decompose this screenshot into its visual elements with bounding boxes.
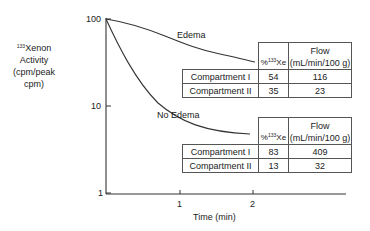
no-edema-table: %133Xe Flow(mL/min/100 g) Compartment I … xyxy=(182,117,352,173)
x-tick-label-1: 1 xyxy=(177,199,182,210)
y-label-line2: Activity xyxy=(4,54,64,66)
y-tick-label-10: 10 xyxy=(91,101,101,112)
edema-table: %133Xe Flow(mL/min/100 g) Compartment I … xyxy=(182,42,352,98)
y-label-superscript: 133 xyxy=(17,43,25,49)
flow-header: Flow(mL/min/100 g) xyxy=(289,43,352,70)
table-row: Compartment II 35 23 xyxy=(183,84,352,98)
pct-header: %133Xe xyxy=(259,118,289,145)
flow-header: Flow(mL/min/100 g) xyxy=(289,118,352,145)
y-tick-label-100: 100 xyxy=(86,14,101,25)
x-axis-label: Time (min) xyxy=(193,212,236,223)
y-label-line1: Xenon xyxy=(25,43,51,53)
y-axis-label: 133Xenon Activity (cpm/peak cpm) xyxy=(4,40,64,90)
table-row: Compartment II 13 32 xyxy=(183,159,352,173)
edema-label: Edema xyxy=(177,30,206,41)
table-row: Compartment I 83 409 xyxy=(183,145,352,159)
x-tick-label-2: 2 xyxy=(250,199,255,210)
table-row: Compartment I 54 116 xyxy=(183,70,352,84)
y-tick-label-1: 1 xyxy=(98,188,103,199)
y-label-line3: (cpm/peak cpm) xyxy=(4,66,64,90)
pct-header: %133Xe xyxy=(259,43,289,70)
